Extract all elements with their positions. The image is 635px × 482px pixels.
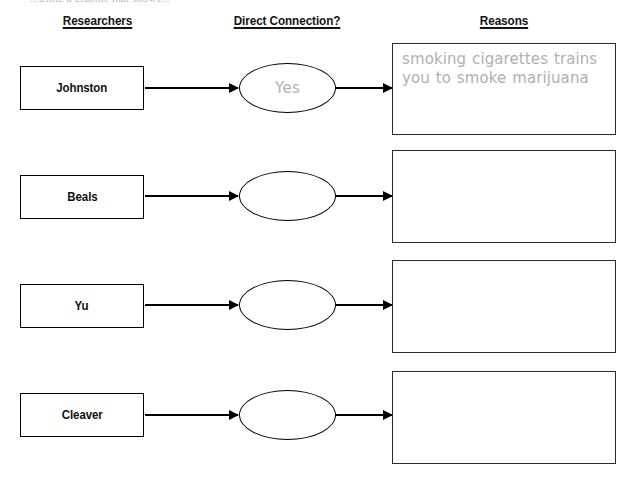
arrow-head	[229, 83, 239, 93]
researcher-name: Beals	[67, 190, 97, 204]
arrow-oval-to-reasons-icon	[336, 190, 392, 202]
researcher-box[interactable]: Cleaver	[20, 393, 144, 437]
organizer-row: Yu	[0, 260, 635, 356]
arrow-oval-to-reasons-icon	[336, 82, 392, 94]
arrow-shaft	[145, 195, 238, 197]
reasons-answer	[402, 378, 606, 379]
arrow-oval-to-reasons-icon	[336, 409, 392, 421]
column-header-direct-connection: Direct Connection?	[212, 14, 362, 28]
reasons-answer	[402, 157, 606, 158]
arrow-researcher-to-oval-icon	[145, 82, 238, 94]
researcher-box[interactable]: Beals	[20, 175, 144, 219]
researcher-name: Johnston	[56, 81, 107, 95]
arrow-researcher-to-oval-icon	[145, 299, 238, 311]
column-header-researchers: Researchers	[25, 14, 171, 28]
arrow-shaft	[145, 304, 238, 306]
arrow-shaft	[145, 87, 238, 89]
connection-oval[interactable]: Yes	[239, 63, 336, 113]
graphic-organizer-worksheet: ...using a graphic that shows... Researc…	[0, 0, 635, 482]
arrow-head	[229, 410, 239, 420]
arrow-oval-to-reasons-icon	[336, 299, 392, 311]
reasons-answer	[402, 267, 606, 268]
reasons-box[interactable]	[392, 371, 616, 464]
column-header-reasons: Reasons	[399, 14, 610, 28]
connection-oval[interactable]	[239, 390, 336, 440]
arrow-head	[229, 191, 239, 201]
reasons-answer: smoking cigarettes trains you to smoke m…	[402, 50, 606, 88]
researcher-box[interactable]: Yu	[20, 284, 144, 328]
arrow-researcher-to-oval-icon	[145, 409, 238, 421]
organizer-row: Beals	[0, 150, 635, 246]
arrow-shaft	[145, 414, 238, 416]
reasons-box[interactable]	[392, 260, 616, 353]
researcher-name: Cleaver	[62, 408, 103, 422]
organizer-row: Johnston Yes smoking cigarettes trains y…	[0, 43, 635, 140]
researcher-name: Yu	[75, 299, 89, 313]
arrow-head	[229, 300, 239, 310]
clipped-instruction-text: ...using a graphic that shows...	[30, 0, 260, 2]
researcher-box[interactable]: Johnston	[20, 66, 144, 110]
connection-oval[interactable]	[239, 280, 336, 330]
reasons-box[interactable]: smoking cigarettes trains you to smoke m…	[392, 43, 616, 135]
reasons-box[interactable]	[392, 150, 616, 243]
connection-answer: Yes	[275, 79, 300, 97]
connection-oval[interactable]	[239, 171, 336, 221]
arrow-researcher-to-oval-icon	[145, 190, 238, 202]
organizer-row: Cleaver	[0, 371, 635, 467]
